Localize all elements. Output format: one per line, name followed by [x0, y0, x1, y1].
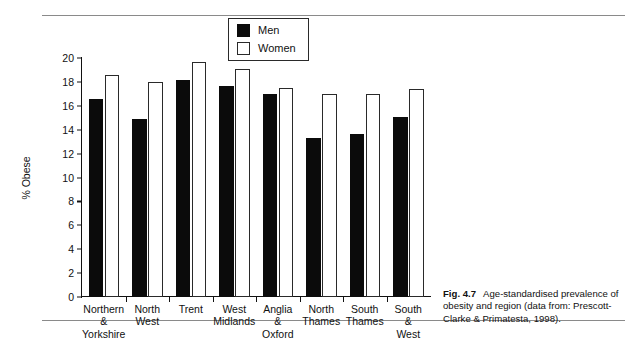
bar-men: [132, 119, 147, 297]
bar-men: [350, 134, 365, 297]
figure-obesity-by-region: % Obese 02468101214161820 Men Women Fig.…: [0, 0, 637, 347]
y-axis-title: % Obese: [20, 156, 32, 199]
y-axis-tick: [77, 297, 82, 298]
y-axis-tick-label: 16: [62, 101, 74, 112]
x-axis-tick: [300, 297, 301, 302]
y-axis-tick-label: 6: [68, 220, 74, 231]
y-axis-tick: [77, 58, 82, 59]
y-axis-tick: [77, 129, 82, 130]
x-axis-group-label: South & West: [381, 303, 437, 340]
x-axis-tick: [169, 297, 170, 302]
chart-legend: Men Women: [228, 18, 309, 61]
x-axis-tick: [256, 297, 257, 302]
bar-women: [366, 94, 381, 297]
bar-men: [176, 80, 191, 297]
bar-women: [148, 82, 163, 297]
bar-women: [105, 75, 120, 297]
legend-entry-men: Men: [237, 24, 296, 37]
bar-men: [89, 99, 104, 297]
y-axis-tick-label: 0: [68, 292, 74, 303]
bar-men: [306, 138, 321, 297]
y-axis-tick: [77, 105, 82, 106]
y-axis-tick-label: 18: [62, 77, 74, 88]
y-axis-tick-label: 12: [62, 148, 74, 159]
legend-swatch-men-icon: [237, 24, 250, 37]
y-axis-tick-label: 8: [68, 196, 74, 207]
bar-men: [393, 117, 408, 297]
bar-women: [279, 88, 294, 297]
bar-men: [263, 94, 278, 297]
x-axis-tick: [213, 297, 214, 302]
x-axis-tick: [387, 297, 388, 302]
y-axis-tick-label: 4: [68, 244, 74, 255]
y-axis-tick: [77, 177, 82, 178]
bar-women: [235, 69, 250, 297]
plot-area: 02468101214161820: [82, 58, 430, 297]
y-axis-tick: [77, 153, 82, 154]
y-axis-tick-label: 14: [62, 124, 74, 135]
y-axis-tick: [77, 273, 82, 274]
y-axis-tick: [77, 249, 82, 250]
y-axis-tick-label: 20: [62, 53, 74, 64]
x-axis-tick: [343, 297, 344, 302]
legend-swatch-women-icon: [237, 42, 250, 55]
y-axis-tick: [77, 225, 82, 226]
x-axis-tick: [126, 297, 127, 302]
y-axis-tick: [77, 81, 82, 82]
y-axis-tick: [77, 201, 82, 202]
bar-men: [219, 86, 234, 298]
figure-caption-number: Fig. 4.7: [443, 288, 476, 299]
y-axis-tick-label: 10: [62, 172, 74, 183]
legend-label-men: Men: [258, 25, 279, 36]
legend-label-women: Women: [258, 43, 296, 54]
legend-entry-women: Women: [237, 42, 296, 55]
figure-caption: Fig. 4.7Age-standardised prevalence of o…: [443, 288, 625, 325]
bar-women: [192, 62, 207, 297]
page-rule-top: [42, 15, 625, 16]
y-axis-tick-label: 2: [68, 268, 74, 279]
bar-women: [409, 89, 424, 297]
bar-women: [322, 94, 337, 297]
